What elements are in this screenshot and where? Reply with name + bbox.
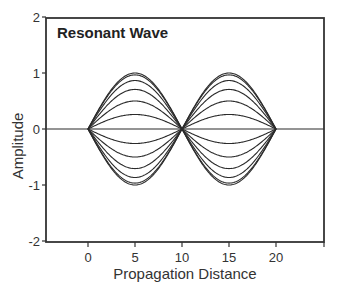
x-tick-label: 5 xyxy=(131,250,138,265)
x-tick-label: 20 xyxy=(269,250,283,265)
x-tick-label: 0 xyxy=(84,250,91,265)
y-tick-label: -1 xyxy=(28,178,40,193)
y-axis-label: Amplitude xyxy=(9,113,26,180)
plot-area xyxy=(46,73,324,185)
y-tick-label: 2 xyxy=(33,10,40,25)
y-tick-label: 0 xyxy=(33,122,40,137)
resonant-wave-chart: -2-1012 05101520 Resonant Wave Propagati… xyxy=(0,0,337,293)
y-tick-label: -2 xyxy=(28,234,40,249)
x-tick-label: 10 xyxy=(175,250,189,265)
chart-title: Resonant Wave xyxy=(57,24,168,41)
x-axis-label: Propagation Distance xyxy=(113,265,256,282)
x-axis-ticks: 05101520 xyxy=(84,242,324,265)
y-tick-label: 1 xyxy=(33,66,40,81)
x-tick-label: 15 xyxy=(222,250,236,265)
y-axis-ticks: -2-1012 xyxy=(28,10,46,249)
